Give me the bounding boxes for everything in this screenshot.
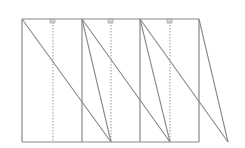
square-marker-icon [108, 19, 113, 23]
diagonal-line [140, 19, 228, 142]
diagonal-line [22, 19, 111, 142]
square-marker-icon [167, 19, 172, 23]
line-diagram [0, 0, 245, 148]
dotted-lines [53, 19, 170, 142]
diagonal-line [199, 19, 228, 142]
square-marker-icon [50, 19, 55, 23]
diagonal-line [82, 19, 170, 142]
diagonal-line [82, 19, 111, 142]
diagonal-line [140, 19, 170, 142]
